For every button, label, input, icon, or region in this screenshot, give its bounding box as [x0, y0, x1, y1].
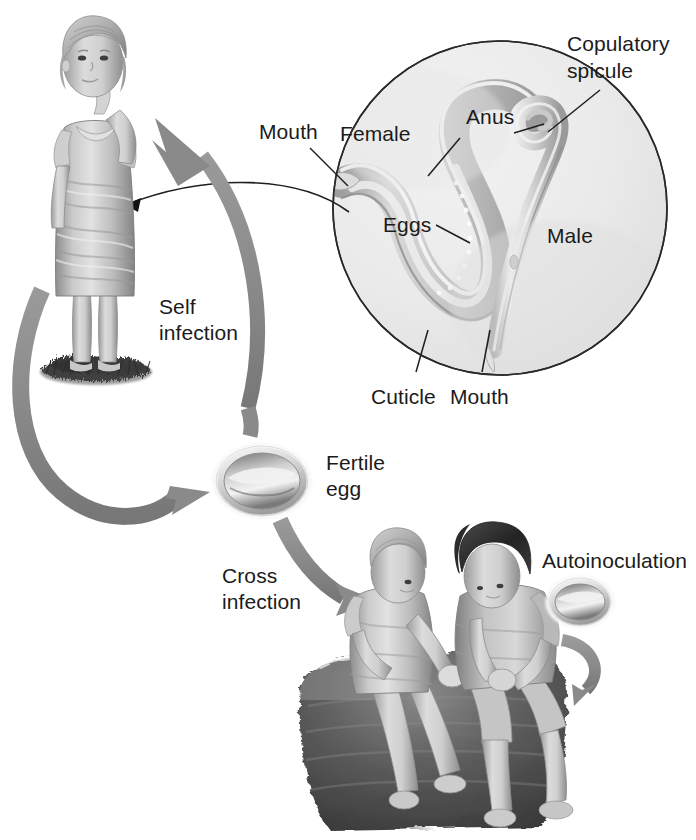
autoinoculation-egg [545, 575, 615, 629]
label-fertile-egg-line2: egg [326, 476, 361, 501]
pinworm-life-cycle-diagram: Mouth Female Anus Copulatory spicule Egg… [0, 0, 696, 840]
label-autoinoculation: Autoinoculation [542, 548, 687, 573]
autoinoculation-arrow [562, 640, 596, 706]
label-fertile-egg-line1: Fertile [326, 450, 385, 475]
self-infection-arrow [152, 118, 257, 436]
label-cross-infection-line2: infection [222, 589, 301, 614]
label-anus: Anus [466, 104, 514, 129]
label-eggs: Eggs [383, 212, 431, 237]
label-cross-infection-line1: Cross [222, 563, 277, 588]
label-female: Female [340, 121, 411, 146]
label-mouth-bottom: Mouth [450, 384, 509, 409]
label-self-infection-line1: Self [159, 294, 196, 319]
grass-patch [40, 355, 152, 385]
worm-detail-circle [330, 41, 670, 380]
two-seated-children [300, 522, 573, 830]
label-self-infection-line2: infection [159, 320, 238, 345]
label-mouth-left: Mouth [259, 119, 318, 144]
label-male: Male [547, 223, 593, 248]
label-cuticle: Cuticle [371, 384, 436, 409]
label-copulatory-spicule-line2: spicule [567, 58, 633, 83]
fertile-egg [212, 443, 312, 519]
label-copulatory-spicule-line1: Copulatory [567, 31, 670, 56]
